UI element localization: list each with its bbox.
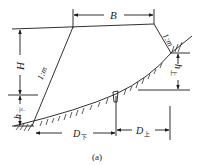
embankment-diagram: B H 1:m 1:m h 下 h 上 D 下 D 上 (a) (0, 0, 198, 165)
label-slope-right: 1:m (161, 32, 176, 48)
figure-caption: (a) (92, 152, 102, 162)
crest-line (12, 24, 154, 29)
svg-text:D: D (135, 125, 144, 136)
svg-text:上: 上 (144, 130, 150, 137)
svg-text:D: D (72, 128, 81, 139)
label-b: B (110, 9, 117, 21)
label-h-upper: h 上 (171, 64, 184, 76)
svg-text:h: h (12, 114, 23, 119)
ground-hatching (16, 42, 182, 131)
svg-text:下: 下 (19, 107, 26, 113)
label-d-lower: D 下 (72, 128, 87, 141)
ground-line (14, 36, 192, 126)
stake-marker (113, 91, 118, 102)
svg-text:下: 下 (81, 134, 87, 141)
svg-text:h: h (173, 64, 184, 69)
label-slope-left: 1:m (35, 65, 49, 81)
label-h-lower: h 下 (12, 107, 26, 119)
label-h: H (14, 61, 26, 71)
svg-text:上: 上 (171, 70, 178, 76)
label-d-upper: D 上 (135, 125, 150, 137)
